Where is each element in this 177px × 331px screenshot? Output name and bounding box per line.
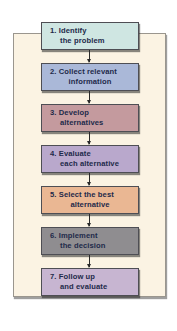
step-7-line1: 7. Follow up [50,272,138,282]
step-4-line1: 4. Evaluate [50,149,138,159]
arrow-down-icon [89,50,90,62]
step-2-line2: information [42,77,138,87]
step-7-follow-up-evaluate: 7. Follow up and evaluate [41,268,139,296]
arrow-down-icon [89,214,90,226]
step-1-identify-problem: 1. Identify the problem [41,22,139,50]
step-3-develop-alternatives: 3. Develop alternatives [41,104,139,132]
step-5-line2: alternative [42,200,138,210]
arrow-down-icon [89,91,90,103]
step-1-line2: the problem [50,36,138,46]
arrow-down-icon [89,132,90,144]
step-6-line1: 6. Implement [50,231,138,241]
step-6-implement-decision: 6. Implement the decision [41,227,139,255]
step-5-line1: 5. Select the best [50,190,138,200]
step-4-evaluate-alternatives: 4. Evaluate each alternative [41,145,139,173]
step-3-line2: alternatives [50,118,138,128]
step-3-line1: 3. Develop [50,108,138,118]
step-4-line2: each alternative [50,159,138,169]
step-6-line2: the decision [50,241,138,251]
step-2-line1: 2. Collect relevant [50,67,138,77]
arrow-down-icon [89,173,90,185]
step-7-line2: and evaluate [50,282,138,292]
step-5-select-best-alternative: 5. Select the best alternative [41,186,139,214]
arrow-down-icon [89,255,90,267]
step-1-line1: 1. Identify [50,26,138,36]
step-2-collect-information: 2. Collect relevant information [41,63,139,91]
